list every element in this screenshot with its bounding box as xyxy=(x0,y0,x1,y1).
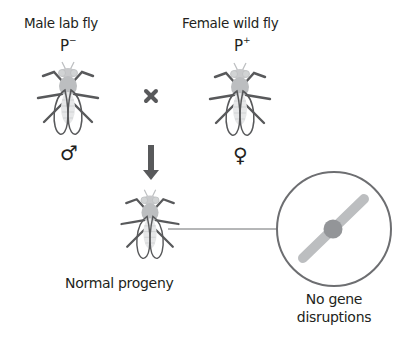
cross-icon xyxy=(146,91,156,101)
centromere-icon xyxy=(324,220,343,239)
down-arrow-icon xyxy=(143,145,159,180)
male-fly-icon xyxy=(38,62,98,134)
progeny-fly-icon xyxy=(122,190,179,259)
female-fly-icon xyxy=(210,63,270,135)
chromosome-detail-circle xyxy=(277,172,391,286)
